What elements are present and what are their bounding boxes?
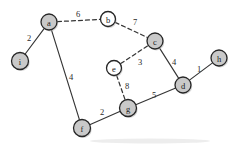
node-f[interactable]: f: [74, 120, 92, 138]
edge-weight-a-f: 4: [69, 72, 74, 82]
node-circle-h[interactable]: [211, 50, 227, 66]
edge-weight-b-c: 7: [133, 17, 137, 27]
node-d[interactable]: d: [175, 77, 192, 94]
edge-a-b: [57, 19, 100, 21]
node-i[interactable]: i: [12, 53, 30, 71]
edge-weight-a-b: 6: [76, 9, 80, 19]
node-circle-a[interactable]: [41, 14, 57, 30]
node-c[interactable]: c: [147, 33, 164, 50]
edge-weight-i-a: 2: [27, 33, 31, 43]
node-circle-g[interactable]: [120, 100, 137, 117]
edge-c-d: [160, 48, 179, 78]
node-e[interactable]: e: [107, 61, 123, 77]
edge-weight-c-d: 4: [172, 57, 177, 67]
node-circle-c[interactable]: [147, 33, 163, 49]
edge-a-f: [52, 30, 80, 119]
edge-i-a: [25, 29, 44, 54]
edge-g-d: [136, 88, 175, 104]
scan-smudge: [90, 139, 210, 144]
node-circle-f[interactable]: [74, 120, 91, 137]
edge-weight-f-g: 2: [100, 107, 104, 117]
node-circle-i[interactable]: [12, 53, 29, 70]
paper-artifact-layer: [90, 139, 210, 144]
node-circle-d[interactable]: [175, 77, 191, 93]
edge-d-h: [190, 63, 212, 80]
edge-weight-e-c: 3: [138, 57, 142, 67]
edge-weight-g-d: 5: [152, 90, 156, 100]
graph-diagram: 2673414258 abcdefghi: [0, 0, 236, 145]
node-circle-e[interactable]: [107, 61, 122, 76]
node-h[interactable]: h: [211, 50, 228, 67]
edge-weight-e-g: 8: [125, 81, 129, 91]
node-circle-b[interactable]: [101, 12, 116, 27]
node-g[interactable]: g: [120, 100, 138, 118]
edge-e-c: [121, 46, 148, 64]
node-b[interactable]: b: [101, 12, 117, 28]
edge-f-g: [90, 112, 119, 125]
edge-e-g: [117, 76, 125, 100]
graph-svg: 2673414258 abcdefghi: [0, 0, 236, 145]
edge-b-c: [115, 22, 147, 37]
nodes-layer: abcdefghi: [12, 12, 229, 138]
